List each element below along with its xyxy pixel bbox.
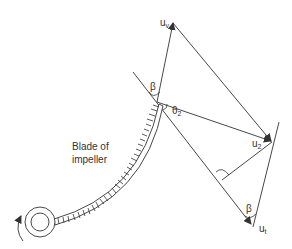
hub-outer [25, 207, 55, 237]
label-u2: u2 [252, 138, 262, 150]
perpendicular-line [222, 142, 272, 180]
label-blade-line1: Blade of [72, 141, 109, 152]
rotation-arrow-icon [18, 216, 23, 241]
label-theta2: θ2 [172, 105, 182, 117]
velocity-diagram: uv β θ2 u2 β ut Blade of impeller [0, 0, 292, 249]
uv-to-u2-line [173, 23, 271, 141]
label-ut: ut [259, 223, 267, 235]
label-beta-bottom: β [246, 203, 252, 214]
beta-bottom-arc [245, 214, 256, 218]
uv-vector [157, 23, 173, 102]
label-beta-top: β [150, 81, 156, 92]
impeller-blade [54, 104, 163, 225]
label-blade-line2: impeller [72, 154, 108, 165]
label-uv: uv [160, 17, 170, 29]
right-angle-arc [216, 170, 229, 175]
tangent-line [133, 72, 251, 224]
